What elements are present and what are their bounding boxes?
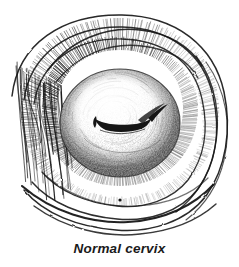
figure-caption: Normal cervix (0, 241, 239, 257)
normal-cervix-illustration: normal-cervix-drawing (0, 0, 239, 238)
cervix-highlight (74, 79, 154, 145)
illustration-svg: normal-cervix-drawing (0, 0, 239, 238)
speck-mark (118, 198, 121, 201)
figure-root: normal-cervix-drawing (0, 0, 239, 267)
